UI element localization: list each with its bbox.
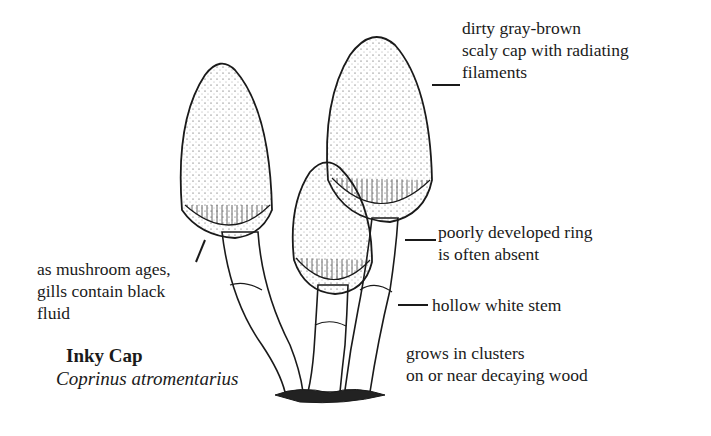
label-cap-line-1: dirty gray-brown (462, 17, 629, 39)
label-ring-line-1: poorly developed ring (438, 221, 593, 243)
label-cap-line-3: filaments (462, 61, 629, 83)
common-name: Inky Cap (66, 345, 143, 367)
label-stem-line-1: hollow white stem (432, 294, 561, 316)
scientific-name: Coprinus atromentarius (56, 368, 238, 390)
label-stem: hollow white stem (432, 294, 561, 316)
label-ring-line-2: is often absent (438, 243, 593, 265)
label-gills: as mushroom ages, gills contain black fl… (37, 258, 171, 324)
label-habitat-line-2: on or near decaying wood (406, 364, 588, 386)
label-gills-line-2: gills contain black (37, 280, 171, 302)
label-gills-line-3: fluid (37, 302, 171, 324)
left-mushroom (181, 64, 303, 392)
label-cap: dirty gray-brown scaly cap with radiatin… (462, 17, 629, 83)
label-cap-line-2: scaly cap with radiating (462, 39, 629, 61)
label-habitat: grows in clusters on or near decaying wo… (406, 342, 588, 386)
label-ring: poorly developed ring is often absent (438, 221, 593, 265)
label-gills-line-1: as mushroom ages, (37, 258, 171, 280)
label-habitat-line-1: grows in clusters (406, 342, 588, 364)
